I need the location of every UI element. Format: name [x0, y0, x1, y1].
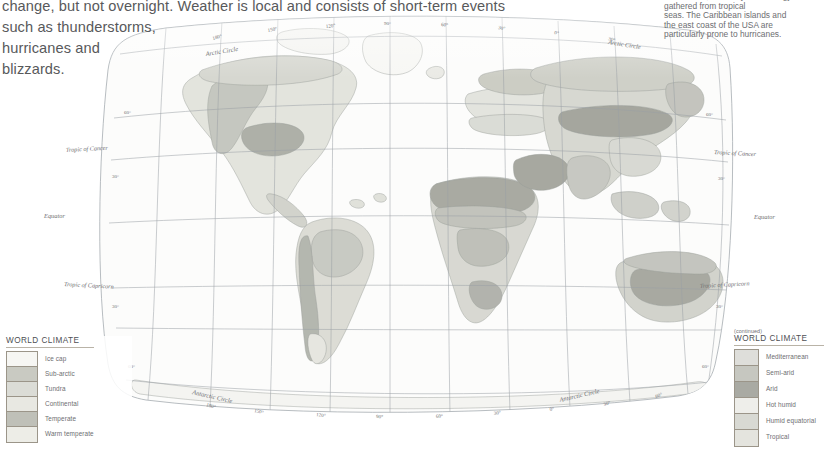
- body-left-line-4: blizzards.: [2, 59, 442, 80]
- label-equator-right: Equator: [753, 213, 775, 220]
- legend-world-climate-right: (continued) WORLD CLIMATE Mediterranean …: [734, 328, 830, 447]
- lon-tick-120w-bottom: 120°: [316, 412, 326, 418]
- lon-tick-60w-top: 60°: [441, 22, 448, 28]
- body-left-line-3: hurricanes and: [2, 38, 442, 59]
- lat-tick-60n-right: 60°: [706, 112, 713, 117]
- label-equator-left: Equator: [43, 212, 65, 219]
- legend-right-divider: [734, 345, 824, 346]
- legend-swatch-temperate: [7, 412, 37, 427]
- legend-left-title: WORLD CLIMATE: [6, 336, 132, 347]
- lat-tick-30s-left: 30°: [112, 304, 119, 309]
- legend-right-label-column: Mediterranean Semi-arid Arid Hot humid H…: [759, 349, 830, 445]
- lon-tick-60w-bottom: 60°: [436, 414, 443, 419]
- body-right-line-5: particularly prone to hurricanes.: [664, 30, 832, 40]
- legend-label-ice-cap: Ice cap: [45, 351, 132, 366]
- legend-right-rows: Mediterranean Semi-arid Arid Hot humid H…: [734, 349, 830, 447]
- legend-swatch-warm-temperate: [7, 427, 37, 442]
- legend-swatch-mediterranean: [735, 350, 758, 366]
- legend-swatch-semi-arid: [735, 366, 758, 382]
- lat-tick-60s-right: 60°: [702, 364, 709, 369]
- legend-swatch-continental: [7, 397, 37, 412]
- legend-right-title: WORLD CLIMATE: [734, 334, 830, 345]
- legend-label-warm-temperate: Warm temperate: [45, 426, 132, 441]
- legend-world-climate-left: WORLD CLIMATE Ice cap Sub-arctic Tundra …: [6, 336, 132, 443]
- legend-label-mediterranean: Mediterranean: [766, 349, 830, 365]
- legend-left-divider: [6, 347, 94, 348]
- legend-label-temperate: Temperate: [45, 411, 132, 426]
- body-left-line-1: change, but not overnight. Weather is lo…: [2, 0, 442, 17]
- label-tropic-capricorn-right: Tropic of Capricorn: [700, 279, 750, 289]
- legend-label-continental: Continental: [45, 396, 132, 411]
- legend-swatch-humid-equatorial: [735, 414, 758, 430]
- legend-label-hot-humid: Hot humid: [766, 397, 830, 413]
- lon-tick-30w-bottom: 30°: [493, 410, 501, 416]
- lat-tick-30n-left: 30°: [112, 174, 119, 179]
- legend-left-label-column: Ice cap Sub-arctic Tundra Continental Te…: [38, 351, 132, 441]
- lon-tick-150w-bottom: 150°: [254, 408, 264, 415]
- legend-label-sub-arctic: Sub-arctic: [45, 366, 132, 381]
- legend-label-humid-equatorial: Humid equatorial: [766, 413, 830, 429]
- legend-label-tropical: Tropical: [766, 429, 830, 445]
- lat-tick-30n-right: 30°: [718, 176, 725, 181]
- legend-swatch-tropical: [735, 430, 758, 446]
- legend-swatch-tundra: [7, 382, 37, 397]
- legend-swatch-arid: [735, 382, 758, 398]
- legend-label-tundra: Tundra: [45, 381, 132, 396]
- body-text-left: change, but not overnight. Weather is lo…: [2, 0, 442, 80]
- lon-tick-90w-bottom: 90°: [376, 414, 383, 419]
- lon-tick-30e-bottom: 30°: [603, 400, 611, 407]
- legend-label-semi-arid: Semi-arid: [766, 365, 830, 381]
- lat-tick-60n-left: 60°: [124, 110, 131, 115]
- body-text-right: windstorms, driven by heat energy gather…: [664, 0, 832, 40]
- legend-swatch-sub-arctic: [7, 367, 37, 382]
- legend-swatch-ice-cap: [7, 352, 37, 367]
- label-tropic-capricorn-left: Tropic of Capricorn: [64, 280, 114, 290]
- body-left-line-2: such as thunderstorms,: [2, 17, 442, 38]
- legend-left-swatch-column: [6, 351, 38, 443]
- legend-swatch-hot-humid: [735, 398, 758, 414]
- legend-label-arid: Arid: [766, 381, 830, 397]
- legend-right-swatch-column: [734, 349, 759, 447]
- lat-tick-30s-right: 30°: [716, 304, 723, 309]
- legend-left-rows: Ice cap Sub-arctic Tundra Continental Te…: [6, 351, 132, 443]
- atlas-page: Arctic Circle Arctic Circle Tropic of Ca…: [0, 0, 834, 452]
